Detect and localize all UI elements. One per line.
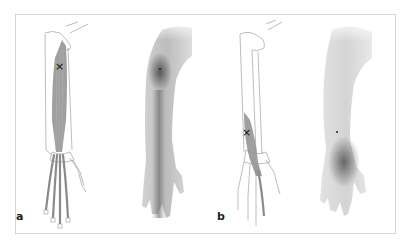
panel-a-muscle: × <box>44 40 70 228</box>
panel-b-pain-arm <box>320 18 380 216</box>
anatomical-illustration: × × <box>0 0 401 240</box>
trigger-point-marker-a: × <box>55 60 64 73</box>
trigger-point-marker-b: × <box>242 126 251 139</box>
panel-label-a: a <box>16 210 23 223</box>
panel-label-b: b <box>217 210 225 223</box>
panel-a-pain-arm <box>142 18 200 218</box>
